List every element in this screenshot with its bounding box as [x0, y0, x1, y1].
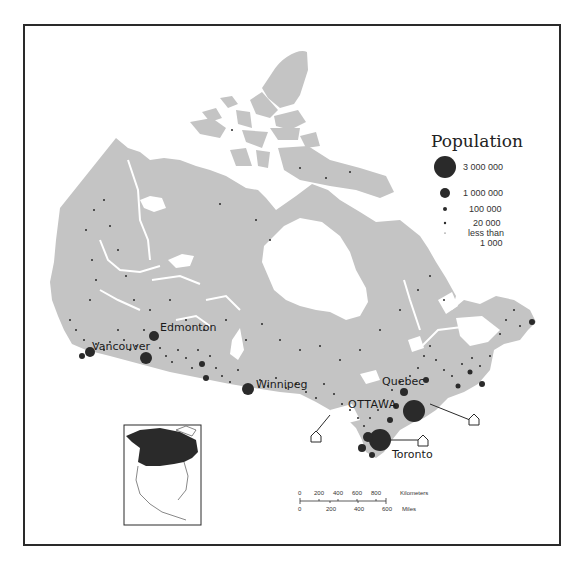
legend-label-1000: 1 000: [480, 238, 540, 248]
scale-km-200: 200: [314, 490, 324, 496]
legend-label-1m: 1 000 000: [463, 188, 523, 198]
dot-edmonton: [149, 331, 159, 341]
canada-map: [0, 0, 583, 567]
house-marker-icon: [469, 414, 479, 425]
dot-quebec: [400, 388, 408, 396]
scale-bar: [300, 498, 386, 504]
inset-north-america: [124, 425, 201, 525]
city-label-quebec: Quebec: [382, 375, 424, 388]
scale-mi-400: 400: [354, 506, 364, 512]
legend-label-20k: 20 000: [473, 218, 533, 228]
scale-km-800: 800: [371, 490, 381, 496]
scale-mi-0: 0: [298, 506, 301, 512]
scale-mi-600: 600: [382, 506, 392, 512]
legend-label-less-than: less than: [468, 228, 528, 238]
legend-label-3m: 3 000 000: [463, 162, 523, 172]
scale-km-0: 0: [298, 490, 301, 496]
dot-toronto: [369, 429, 391, 451]
dot-winnipeg: [242, 383, 254, 395]
scale-mi-200: 200: [326, 506, 336, 512]
dot-calgary: [140, 352, 152, 364]
city-label-toronto: Toronto: [392, 448, 433, 461]
scale-km-label: Kilometers: [400, 490, 428, 496]
scale-mi-label: Miles: [402, 506, 416, 512]
legend-label-100k: 100 000: [469, 204, 529, 214]
scale-km-400: 400: [333, 490, 343, 496]
city-label-ottawa: OTTAWA: [348, 398, 397, 411]
dot-montreal: [403, 400, 425, 422]
house-marker-icon: [418, 435, 428, 446]
city-label-winnipeg: Winnipeg: [256, 378, 307, 391]
house-marker-icon: [311, 431, 321, 442]
legend-title: Population: [431, 131, 523, 151]
legend-symbols: [434, 156, 456, 234]
scale-km-600: 600: [352, 490, 362, 496]
city-label-edmonton: Edmonton: [160, 321, 216, 334]
city-label-vancouver: Vancouver: [92, 340, 150, 353]
